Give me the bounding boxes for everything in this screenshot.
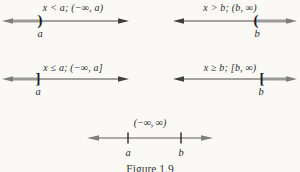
arrowhead-left-icon <box>87 135 99 141</box>
interval-title: x ≥ b; [b, ∞) <box>204 62 257 73</box>
interval-title-whole-line: (−∞, ∞) <box>134 117 167 128</box>
endpoint-label: a <box>37 29 42 40</box>
arrowhead-left-icon <box>173 76 184 81</box>
open-endpoint-paren: ( <box>254 13 259 28</box>
figure-caption: Figure 1.9 <box>126 163 173 172</box>
arrowhead-right-icon <box>118 76 129 81</box>
panel-x-less-than-a: x < a; (−∞, a) ) a <box>0 0 150 55</box>
endpoint-label: a <box>35 87 40 98</box>
figure-1-9: x < a; (−∞, a) ) a x > b; (b, ∞) ( b x ≤… <box>0 0 300 172</box>
tick-label-b: b <box>178 148 183 159</box>
interval-title: x < a; (−∞, a) <box>43 2 103 13</box>
closed-endpoint-bracket: ] <box>36 71 41 86</box>
panel-x-greater-equal-b: x ≥ b; [b, ∞) [ b <box>150 55 300 110</box>
arrowhead-left-icon <box>173 18 184 23</box>
arrowhead-left-icon <box>2 18 13 23</box>
tick-label-a: a <box>125 148 130 159</box>
endpoint-label: b <box>258 87 263 98</box>
arrowhead-left-icon <box>2 76 13 81</box>
panel-x-greater-than-b: x > b; (b, ∞) ( b <box>150 0 300 55</box>
arrowhead-right-icon <box>118 18 129 23</box>
panel-x-less-equal-a: x ≤ a; (−∞, a] ] a <box>0 55 150 110</box>
endpoint-label: b <box>254 29 259 40</box>
arrowhead-right-icon <box>201 135 213 141</box>
open-endpoint-paren: ) <box>38 13 43 28</box>
arrowhead-right-icon <box>286 18 297 23</box>
interval-title: x ≤ a; (−∞, a] <box>43 62 103 73</box>
closed-endpoint-bracket: [ <box>260 71 265 86</box>
interval-title: x > b; (b, ∞) <box>203 2 256 13</box>
arrowhead-right-icon <box>286 76 297 81</box>
